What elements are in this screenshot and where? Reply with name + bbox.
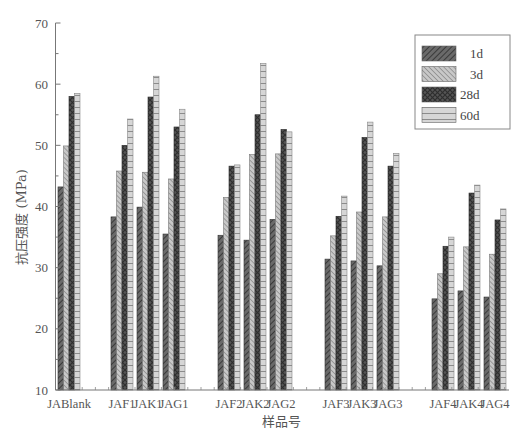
y-axis-title: 抗压强度 (MPa) [14, 169, 29, 265]
bar-jag3-28d [388, 166, 394, 390]
bar-jaf2-1d [218, 235, 224, 390]
bar-jag2-1d [270, 219, 276, 390]
bar-jaf1-3d [117, 171, 123, 390]
bar-jaf1-60d [128, 119, 134, 390]
legend-swatch-28d [422, 87, 456, 102]
x-tick-label: JAF2 [215, 397, 242, 411]
bar-group-jak4 [458, 185, 480, 390]
bar-jak4-28d [469, 193, 475, 390]
bar-group-jak2 [244, 63, 266, 390]
bar-group-jaf3 [325, 196, 347, 390]
bar-jak1-3d [143, 172, 149, 390]
bar-group-jag3 [377, 153, 399, 390]
bar-jaf3-28d [336, 216, 342, 390]
legend-label-60d: 60d [460, 108, 480, 123]
bar-jak2-28d [255, 115, 261, 390]
legend-swatch-60d [422, 108, 456, 123]
y-tick-label: 50 [35, 138, 48, 153]
bar-jag2-60d [287, 132, 293, 390]
bar-jag3-3d [383, 217, 389, 390]
bar-jablank-60d [75, 93, 81, 390]
bar-jak2-1d [244, 240, 250, 390]
bar-jag4-1d [484, 297, 490, 390]
compressive-strength-bar-chart: JABlankJAF1JAK1JAG1JAF2JAK2JAG2JAF3JAK3J… [0, 0, 523, 444]
bar-jaf4-28d [443, 246, 449, 390]
x-tick-label: JABlank [47, 397, 92, 411]
bar-jaf1-28d [122, 145, 128, 390]
bar-jak1-60d [154, 76, 160, 390]
bar-jak2-3d [250, 155, 256, 390]
bar-jak4-60d [475, 185, 481, 390]
bar-jablank-3d [64, 146, 70, 390]
bar-group-jaf4 [432, 237, 454, 390]
bar-group-jag1 [163, 109, 185, 390]
legend-swatch-1d [422, 46, 456, 61]
bar-jag2-28d [281, 129, 287, 390]
legend-label-1d: 1d [470, 46, 484, 61]
bar-jak3-28d [362, 137, 368, 390]
x-tick-label: JAF3 [322, 397, 349, 411]
x-tick-label: JAK3 [347, 397, 376, 411]
bar-jag3-1d [377, 266, 383, 390]
bar-jaf4-1d [432, 299, 438, 390]
bar-jak3-1d [351, 261, 357, 390]
x-tick-label: JAF4 [429, 397, 457, 411]
bar-jag4-60d [501, 209, 507, 390]
legend-label-28d: 28d [460, 87, 480, 102]
bar-jaf2-3d [224, 197, 230, 390]
bar-jak2-60d [261, 63, 267, 390]
legend: 1d3d28d60d [415, 35, 510, 129]
bar-jaf3-60d [342, 196, 348, 390]
bar-jag2-3d [276, 154, 282, 390]
bar-jaf4-3d [438, 274, 444, 390]
x-tick-label: JAG4 [480, 397, 510, 411]
bar-group-jaf1 [111, 119, 133, 390]
x-tick-label: JAK2 [240, 397, 269, 411]
bar-jablank-1d [58, 187, 64, 390]
x-axis-title: 样品号 [262, 414, 301, 429]
bar-group-jak3 [351, 122, 373, 390]
y-tick-label: 10 [35, 383, 48, 398]
bar-jak4-1d [458, 291, 464, 390]
bar-group-jag2 [270, 129, 292, 390]
bar-jag3-60d [394, 153, 400, 390]
bar-jak1-28d [148, 97, 154, 390]
bar-jaf1-1d [111, 217, 117, 390]
bar-jaf3-3d [331, 236, 337, 390]
bar-jaf2-60d [235, 165, 241, 390]
x-tick-label: JAF1 [108, 397, 135, 411]
y-tick-label: 30 [35, 260, 48, 275]
bar-jaf4-60d [449, 237, 455, 390]
x-tick-label: JAG1 [159, 397, 188, 411]
bar-group-jag4 [484, 209, 506, 390]
y-tick-label: 40 [35, 199, 48, 214]
bar-jak1-1d [137, 207, 143, 390]
y-tick-label: 60 [35, 77, 48, 92]
bar-jaf3-1d [325, 259, 331, 390]
bar-jag4-3d [490, 254, 496, 390]
bar-group-jaf2 [218, 165, 240, 390]
x-tick-label: JAG3 [373, 397, 402, 411]
legend-label-3d: 3d [470, 67, 484, 82]
bar-jak3-60d [368, 122, 374, 390]
bar-jaf2-28d [229, 166, 235, 390]
legend-swatch-3d [422, 67, 456, 82]
bar-group-jablank [58, 93, 80, 390]
bar-jag1-3d [169, 179, 175, 390]
bar-jag1-28d [174, 127, 180, 390]
bar-jablank-28d [69, 96, 75, 390]
y-tick-label: 20 [35, 321, 48, 336]
bar-jak3-3d [357, 212, 363, 390]
x-tick-label: JAK1 [133, 397, 162, 411]
bar-group-jak1 [137, 76, 159, 390]
y-tick-label: 70 [35, 16, 48, 31]
x-tick-label: JAG2 [266, 397, 295, 411]
bar-jag4-28d [495, 220, 501, 390]
bar-jak4-3d [464, 247, 470, 390]
bar-jag1-60d [180, 109, 186, 390]
bar-jag1-1d [163, 234, 169, 390]
